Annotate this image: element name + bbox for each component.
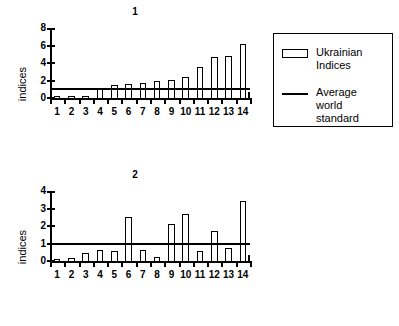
chart-1-legend: Ukrainian Indices Average world standard: [273, 33, 393, 127]
chart-panel-1: 1 indices 02468 1234567891011121314 Ukra…: [0, 0, 399, 163]
x-tick-label: 10: [180, 106, 191, 118]
x-tick-label: 11: [195, 106, 206, 118]
y-tick-label: 0: [40, 256, 46, 266]
x-tick-mark: [150, 261, 152, 267]
x-tick-label: 12: [209, 106, 220, 118]
x-tick-mark: [107, 261, 109, 267]
legend-label-line-2: world: [316, 99, 359, 112]
x-tick-mark: [64, 261, 66, 267]
x-tick-mark: [250, 261, 252, 267]
legend-label-line-1: Ukrainian: [316, 46, 362, 59]
x-tick-label: 7: [140, 269, 146, 281]
x-tick-mark: [250, 98, 252, 104]
x-tick-mark: [207, 261, 209, 267]
x-tick-label: 9: [169, 269, 175, 281]
legend-label-line-2: Indices: [316, 59, 362, 72]
bar-14: [240, 201, 247, 261]
bar-4: [97, 250, 104, 261]
x-tick-mark: [236, 261, 238, 267]
chart-2-x-tick-labels: 1234567891011121314: [50, 269, 250, 283]
chart-2-plot-area: indices 01234 1234567891011121314: [0, 191, 270, 311]
legend-label-average-standard: Average world standard: [316, 86, 359, 125]
x-tick-mark: [164, 98, 166, 104]
y-tick-label: 1: [40, 239, 46, 249]
x-tick-label: 2: [69, 269, 75, 281]
y-tick-label: 6: [40, 41, 46, 51]
chart-2-y-tick-labels: 01234: [26, 191, 46, 261]
bar-1: [54, 96, 61, 98]
bar-5: [111, 85, 118, 98]
bar-11: [197, 67, 204, 99]
y-tick-label: 4: [40, 58, 46, 68]
x-tick-mark: [179, 261, 181, 267]
x-tick-mark: [207, 98, 209, 104]
x-tick-label: 2: [69, 106, 75, 118]
chart-1-y-tick-labels: 02468: [26, 28, 46, 98]
x-tick-label: 5: [112, 269, 118, 281]
chart-1-plot-area: indices 02468 1234567891011121314: [0, 28, 270, 148]
x-tick-label: 11: [195, 269, 206, 281]
x-tick-label: 5: [112, 106, 118, 118]
x-tick-mark: [121, 98, 123, 104]
x-tick-label: 14: [237, 106, 248, 118]
legend-label-ukrainian-indices: Ukrainian Indices: [316, 46, 362, 72]
bar-11: [197, 251, 204, 262]
x-tick-label: 6: [126, 269, 132, 281]
legend-label-line-3: standard: [316, 112, 359, 125]
x-tick-mark: [136, 261, 138, 267]
bar-7: [140, 250, 147, 261]
chart-2-axes: [50, 191, 250, 279]
x-tick-mark: [193, 98, 195, 104]
y-tick-label: 4: [40, 186, 46, 196]
bar-5: [111, 251, 118, 261]
bar-2: [68, 96, 75, 98]
x-tick-mark: [221, 261, 223, 267]
x-tick-mark: [64, 98, 66, 104]
x-tick-label: 1: [54, 106, 60, 118]
x-tick-label: 4: [97, 106, 103, 118]
chart-1-x-tick-labels: 1234567891011121314: [50, 106, 250, 120]
x-tick-mark: [236, 98, 238, 104]
bar-3: [82, 96, 89, 98]
chart-1-title: 1: [0, 6, 270, 18]
bar-3: [82, 253, 89, 261]
x-tick-mark: [50, 98, 52, 104]
chart-2-title: 2: [0, 169, 270, 181]
bar-2: [68, 258, 75, 261]
x-tick-label: 10: [180, 269, 191, 281]
chart-1-axes: [50, 28, 250, 116]
bar-13: [225, 56, 232, 98]
bar-12: [211, 231, 218, 261]
x-tick-mark: [121, 261, 123, 267]
bar-10: [182, 214, 189, 261]
bar-swatch-icon: [282, 49, 308, 58]
bar-6: [125, 84, 132, 98]
y-tick-label: 8: [40, 23, 46, 33]
legend-entry-ukrainian-indices: Ukrainian Indices: [282, 46, 362, 72]
y-tick-label: 3: [40, 204, 46, 214]
bar-12: [211, 57, 218, 98]
legend-entry-average-standard: Average world standard: [282, 86, 359, 125]
x-tick-mark: [179, 98, 181, 104]
x-tick-label: 8: [154, 269, 160, 281]
x-tick-label: 13: [223, 269, 234, 281]
bar-1: [54, 259, 61, 261]
y-tick-label: 2: [40, 221, 46, 231]
x-tick-label: 13: [223, 106, 234, 118]
x-tick-mark: [193, 261, 195, 267]
x-tick-label: 14: [237, 269, 248, 281]
bar-13: [225, 248, 232, 261]
bar-7: [140, 83, 147, 98]
x-tick-mark: [50, 261, 52, 267]
x-tick-mark: [164, 261, 166, 267]
chart-2-reference-line: [50, 243, 250, 245]
x-tick-label: 9: [169, 106, 175, 118]
chart-panel-2: 2 indices 01234 1234567891011121314 Ukra…: [0, 163, 399, 326]
x-tick-mark: [107, 98, 109, 104]
x-tick-label: 7: [140, 106, 146, 118]
x-tick-mark: [150, 98, 152, 104]
x-tick-label: 4: [97, 269, 103, 281]
y-tick-label: 0: [40, 93, 46, 103]
chart-1-reference-line: [50, 88, 250, 90]
x-tick-label: 8: [154, 106, 160, 118]
